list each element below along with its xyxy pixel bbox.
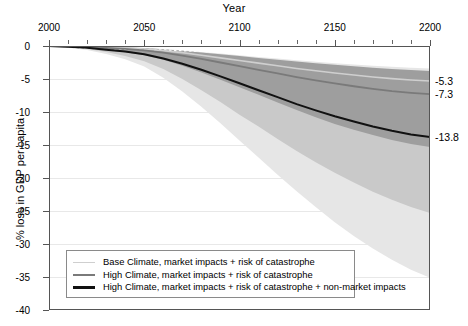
x-tick	[411, 40, 412, 44]
chart-root: Year % loss in GDP per capita 2000205021…	[0, 0, 468, 326]
legend-item-label: High Climate, market impacts + risk of c…	[103, 269, 313, 281]
y-tick-label: -15	[16, 140, 30, 151]
x-tick	[354, 40, 355, 44]
y-tick-label: -25	[16, 206, 30, 217]
x-tick	[373, 40, 374, 44]
legend-item: High Climate, market impacts + risk of c…	[73, 281, 348, 294]
legend-item-label: High Climate, market impacts + risk of c…	[103, 281, 406, 293]
x-tick	[278, 40, 279, 44]
y-tick-label: -35	[16, 272, 30, 283]
y-tick-label: -40	[16, 305, 30, 316]
end-value-label: -5.3	[435, 75, 453, 87]
x-tick	[220, 40, 221, 44]
legend-item-label: Base Climate, market impacts + risk of c…	[103, 256, 315, 268]
y-tick-label: -10	[16, 107, 30, 118]
x-tick	[125, 40, 126, 44]
end-value-label: -7.3	[435, 88, 453, 100]
x-tick	[68, 40, 69, 44]
x-tick	[106, 40, 107, 44]
x-tick	[87, 40, 88, 44]
x-tick-label: 2200	[419, 22, 441, 33]
x-tick	[316, 40, 317, 44]
x-tick-label: 2000	[38, 22, 60, 33]
y-tick	[43, 310, 49, 311]
x-axis-title: Year	[0, 2, 468, 14]
legend-line-icon	[73, 274, 95, 276]
y-tick-label: -5	[21, 74, 30, 85]
legend-line-icon	[73, 262, 95, 264]
end-value-label: -13.8	[435, 131, 459, 143]
x-tick-label: 2050	[133, 22, 155, 33]
legend-line-icon	[73, 286, 95, 289]
x-tick	[182, 40, 183, 44]
x-tick-label: 2150	[324, 22, 346, 33]
x-tick	[430, 40, 431, 46]
x-tick	[392, 40, 393, 44]
y-tick-label: -20	[16, 173, 30, 184]
legend-item: Base Climate, market impacts + risk of c…	[73, 256, 348, 269]
x-tick	[163, 40, 164, 44]
legend-item: High Climate, market impacts + risk of c…	[73, 269, 348, 282]
y-tick-label: -30	[16, 239, 30, 250]
x-tick-label: 2100	[228, 22, 250, 33]
y-tick-label: 0	[24, 41, 30, 52]
legend: Base Climate, market impacts + risk of c…	[66, 250, 355, 298]
x-tick	[297, 40, 298, 44]
x-tick	[259, 40, 260, 44]
x-tick	[201, 40, 202, 44]
